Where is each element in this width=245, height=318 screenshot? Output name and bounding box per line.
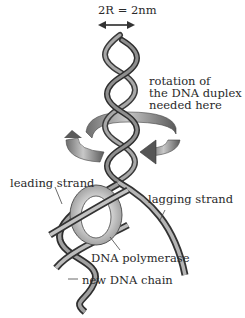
new-dna-chain-label: new DNA chain	[82, 274, 173, 286]
rotation-label: rotation of the DNA duplex needed here	[149, 75, 242, 111]
dna-replication-diagram: 2R = 2nm rotation of the DNA duplex need…	[0, 0, 245, 318]
lagging-strand-label: lagging strand	[148, 193, 233, 205]
dna-polymerase-label: DNA polymerase	[91, 252, 189, 264]
leading-strand-label: leading strand	[10, 177, 94, 189]
width-arrow	[98, 21, 135, 29]
rotation-label-line-3: needed here	[149, 99, 242, 111]
dna-duplex	[105, 35, 137, 184]
width-label: 2R = 2nm	[98, 4, 157, 16]
